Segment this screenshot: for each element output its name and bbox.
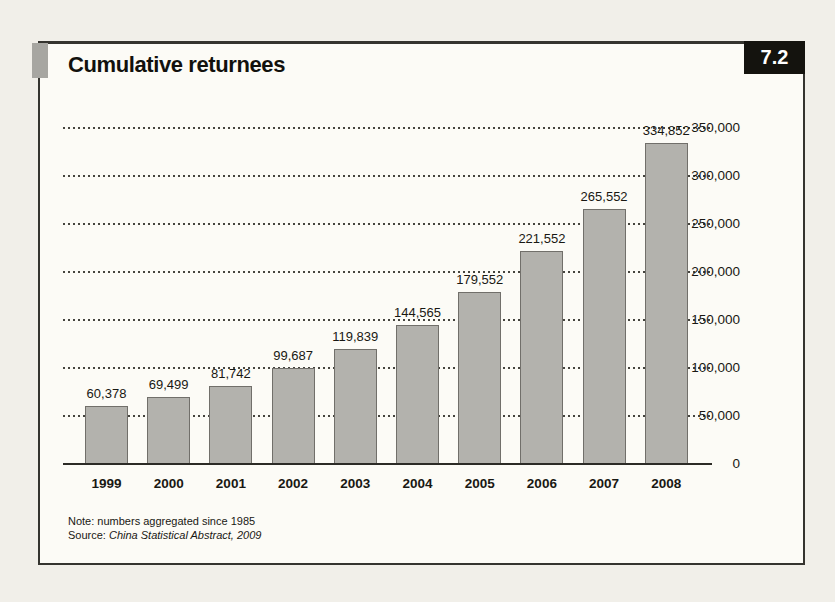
bar-2004 [396,325,439,464]
figure-box: Cumulative returnees 7.2 050,000100,0001… [38,41,805,565]
source-label: Source: [68,529,106,541]
bar-value-label: 221,552 [492,231,592,246]
gridline-350,000 [63,127,712,129]
source-title: China Statistical Abstract, 2009 [109,529,261,541]
scanned-page-background: Cumulative returnees 7.2 050,000100,0001… [0,0,835,602]
bar-2006 [520,251,563,464]
x-tick-label: 2008 [626,476,706,491]
bar-value-label: 119,839 [305,329,405,344]
bar-2007 [583,209,626,464]
chart-source: Source: China Statistical Abstract, 2009 [68,529,261,542]
bar-2002 [272,368,315,464]
gridline-300,000 [63,175,712,177]
bar-value-label: 265,552 [554,189,654,204]
bar-2003 [334,349,377,464]
bar-2005 [458,292,501,464]
bar-chart: 050,000100,000150,000200,000250,000300,0… [40,44,803,563]
bar-value-label: 81,742 [181,366,281,381]
x-axis-line [63,463,712,465]
bar-1999 [85,406,128,464]
bar-value-label: 144,565 [368,305,468,320]
chart-note: Note: numbers aggregated since 1985 [68,515,255,528]
bar-value-label: 99,687 [243,348,343,363]
bar-2001 [209,386,252,464]
bar-value-label: 179,552 [430,272,530,287]
bar-value-label: 334,852 [616,123,716,138]
bar-2008 [645,143,688,464]
bar-2000 [147,397,190,464]
